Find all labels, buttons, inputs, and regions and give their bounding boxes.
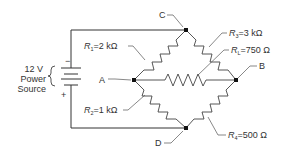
svg-text:RL=750 Ω: RL=750 Ω [231, 45, 270, 56]
battery-icon [61, 62, 81, 90]
r1-leader [128, 46, 145, 60]
brace-icon [48, 66, 55, 86]
node-a-leader [108, 79, 131, 80]
resistor-r2 [134, 80, 186, 128]
node-c-leader [167, 15, 183, 27]
rl-label: RL=750 Ω [231, 45, 270, 56]
node-c-label: C [159, 10, 166, 20]
svg-text:R1=2 kΩ: R1=2 kΩ [84, 41, 118, 52]
node-d-leader [164, 131, 183, 143]
resistor-rl [134, 74, 236, 86]
node-d [184, 126, 188, 130]
r2-leader [123, 95, 145, 110]
node-a-label: A [99, 75, 105, 85]
r1-label: R1=2 kΩ [84, 41, 118, 52]
node-d-label: D [155, 138, 162, 148]
node-c [184, 28, 188, 32]
r4-label: R4=500 Ω [228, 130, 267, 141]
node-b-label: B [259, 61, 265, 71]
resistor-r4 [186, 80, 236, 128]
circuit-diagram: − + 12 V Power Source C A B D R1=2 kΩ R2… [0, 0, 287, 156]
svg-text:R3=3 kΩ: R3=3 kΩ [229, 28, 263, 39]
svg-text:R2=1 kΩ: R2=1 kΩ [84, 105, 118, 116]
battery-minus-label: − [65, 56, 70, 66]
r3-label: R3=3 kΩ [229, 28, 263, 39]
resistor-r1 [134, 30, 186, 80]
node-b [234, 78, 238, 82]
battery-plus-label: + [61, 90, 66, 100]
node-b-leader [238, 66, 257, 78]
r4-leader [208, 117, 226, 135]
r3-leader [209, 33, 227, 47]
source-line1-label: Power [20, 74, 46, 84]
source-voltage-label: 12 V [24, 64, 43, 74]
source-line2-label: Source [17, 84, 46, 94]
node-a [132, 78, 136, 82]
svg-text:R4=500 Ω: R4=500 Ω [228, 130, 267, 141]
r2-label: R2=1 kΩ [84, 105, 118, 116]
